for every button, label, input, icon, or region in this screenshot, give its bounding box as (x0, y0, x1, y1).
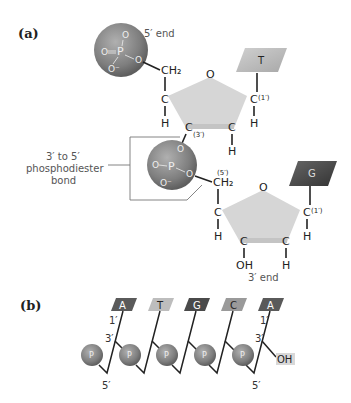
base-letter: G (308, 168, 316, 179)
svg-text:C: C (282, 235, 290, 248)
bond-caption-line-3: bond (51, 175, 76, 186)
svg-text:P: P (202, 351, 207, 360)
svg-text:C: C (240, 235, 248, 248)
position-3-label: (3′) (193, 131, 205, 139)
svg-text:C: C (214, 206, 222, 219)
base-G-top: G (289, 161, 337, 186)
base-C-4: C (221, 298, 247, 311)
bond-line (143, 62, 160, 70)
svg-text:O: O (177, 144, 184, 154)
base-A-1: A (111, 298, 137, 311)
base-letter: T (257, 55, 265, 66)
carbon-2-atom: C (228, 121, 236, 134)
carbon-3-atom: C (185, 121, 193, 134)
panel-a: (a) 5′ end P O O O O⁻ CH₂ C H O C (1′) H (18, 23, 337, 283)
oxygen-atom: O (101, 47, 108, 57)
ring-oxygen-atom: O (206, 68, 215, 81)
svg-text:(1′): (1′) (311, 207, 323, 215)
svg-text:P: P (240, 351, 245, 360)
hydrogen-atom: H (250, 117, 258, 130)
svg-text:OH: OH (277, 354, 292, 365)
position-1-label: (1′) (258, 94, 270, 102)
prime-1-label-right: 1′ (260, 315, 269, 326)
panel-a-label: (a) (18, 26, 39, 41)
prime-3-label-right: 3′ (255, 333, 264, 344)
svg-text:H: H (282, 259, 290, 272)
svg-text:G: G (193, 300, 201, 311)
svg-text:A: A (119, 300, 126, 311)
phosphate-spheres: P P P P P (81, 344, 254, 366)
base-T-top: T (236, 48, 287, 72)
base-G-3: G (184, 298, 210, 311)
carbon-4-atom: C (161, 93, 169, 106)
oxygen-atom: O (135, 55, 142, 65)
phosphorus-atom: P (117, 45, 124, 58)
svg-text:H: H (214, 230, 222, 243)
svg-text:T: T (156, 300, 164, 311)
hydroxyl-group: OH (236, 259, 253, 272)
svg-text:P: P (168, 160, 175, 173)
phosphate-group-top: P O O O O⁻ (94, 23, 148, 77)
svg-text:C: C (303, 206, 311, 219)
svg-text:A: A (267, 300, 274, 311)
panel-b-label: (b) (20, 298, 41, 313)
panel-b: (b) A T G C A (20, 298, 295, 391)
three-prime-end-label: 3′ end (248, 272, 279, 283)
svg-text:C: C (230, 300, 237, 311)
prime-3-label-left: 3′ (105, 333, 114, 344)
ch2-group: CH₂ (161, 64, 181, 77)
five-prime-end-label: 5′ end (144, 28, 175, 39)
bond-caption-line-2: phosphodiester (26, 163, 104, 174)
svg-text:P: P (164, 351, 169, 360)
terminal-hydroxyl: OH (276, 353, 295, 365)
bond-caption-line-1: 3′ to 5′ (46, 151, 80, 162)
oxygen-atom: O (122, 30, 129, 40)
phosphate-group-middle: P O O O O⁻ (147, 140, 197, 190)
svg-text:O: O (186, 169, 193, 179)
prime-5-label-left: 5′ (102, 380, 111, 391)
svg-text:O: O (152, 160, 159, 170)
oxygen-minus-atom: O⁻ (108, 64, 120, 74)
base-A-5: A (258, 298, 284, 311)
svg-text:H: H (303, 230, 311, 243)
svg-text:P: P (127, 351, 132, 360)
prime-5-label-right: 5′ (252, 380, 261, 391)
hydrogen-atom: H (161, 117, 169, 130)
carbon-1-atom: C (250, 93, 258, 106)
ch2-group: CH₂ (213, 176, 233, 189)
dna-structure-diagram: (a) 5′ end P O O O O⁻ CH₂ C H O C (1′) H (0, 0, 351, 403)
base-T-2: T (148, 298, 174, 311)
svg-text:O⁻: O⁻ (160, 178, 172, 188)
hydrogen-atom: H (228, 145, 236, 158)
svg-text:O: O (259, 181, 268, 194)
svg-text:P: P (89, 351, 94, 360)
prime-1-label-left: 1′ (109, 315, 118, 326)
